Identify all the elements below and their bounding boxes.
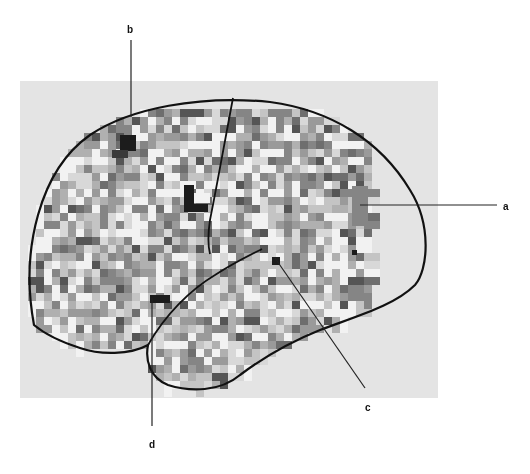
label-b: b: [127, 25, 133, 35]
label-d: d: [149, 440, 155, 450]
label-c: c: [365, 403, 371, 413]
brain-map-figure: a b c d: [0, 0, 530, 474]
leader-lines: [131, 40, 497, 426]
label-a: a: [503, 202, 509, 212]
brain-outline: [30, 100, 426, 389]
sylvian-fissure-line: [148, 249, 262, 345]
central-sulcus-line: [208, 98, 233, 254]
annotation-overlay: [0, 0, 530, 474]
leader-line-c: [275, 258, 365, 388]
